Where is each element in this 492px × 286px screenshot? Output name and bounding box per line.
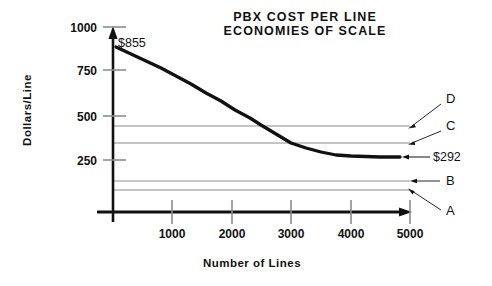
x-tick-label-1000: 1000 <box>159 227 186 241</box>
series-label-c: C <box>446 118 455 133</box>
annotation-start-value: $855 <box>118 36 146 50</box>
y-tick-label-1000: 1000 <box>70 21 97 35</box>
pbx-cost-per-line-chart: PBX COST PER LINE ECONOMIES OF SCALE 100… <box>0 0 492 286</box>
series-label-b: B <box>446 173 455 188</box>
chart-title-line-1: PBX COST PER LINE <box>233 10 377 24</box>
y-axis-title: Dollars/Line <box>21 74 33 146</box>
y-tick-label-250: 250 <box>77 154 97 168</box>
x-tick-label-5000: 5000 <box>397 227 424 241</box>
series-label-d: D <box>446 91 455 106</box>
series-label-a: A <box>446 203 455 218</box>
x-tick-label-4000: 4000 <box>338 227 365 241</box>
x-tick-label-3000: 3000 <box>278 227 305 241</box>
x-tick-label-2000: 2000 <box>219 227 246 241</box>
y-tick-label-500: 500 <box>77 110 97 124</box>
x-axis-title: Number of Lines <box>203 257 301 269</box>
y-tick-label-750: 750 <box>77 64 97 78</box>
annotation-end-value: $292 <box>433 150 461 164</box>
chart-figure: PBX COST PER LINE ECONOMIES OF SCALE 100… <box>0 0 492 286</box>
chart-title-line-2: ECONOMIES OF SCALE <box>224 24 387 38</box>
